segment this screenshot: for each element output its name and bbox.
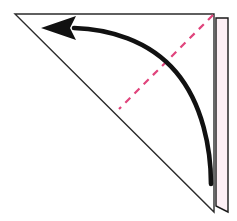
right-edge-flap <box>216 18 228 212</box>
fold-diagram-canvas <box>0 0 237 221</box>
origami-fold-diagram: Fold the right flap over to the left alo… <box>0 0 237 221</box>
